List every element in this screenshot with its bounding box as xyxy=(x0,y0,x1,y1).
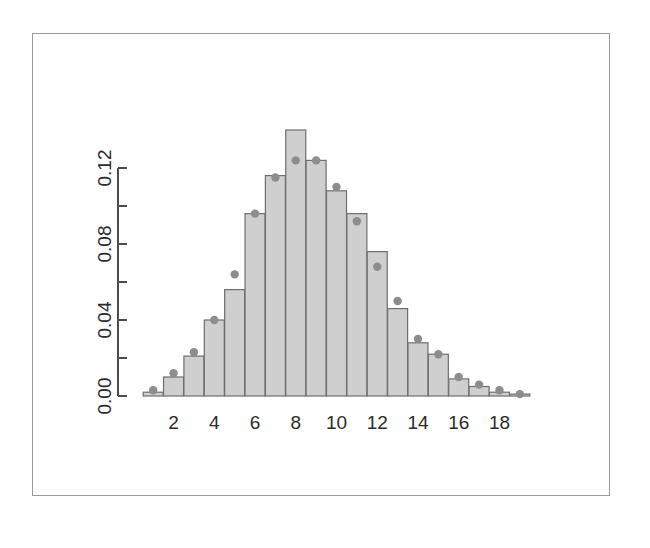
plot-area: 24681012141618 0.000.040.080.12 xyxy=(0,0,650,548)
x-tick-label: 12 xyxy=(367,412,388,433)
x-tick-label: 4 xyxy=(209,412,220,433)
bar xyxy=(204,320,224,396)
bar xyxy=(327,191,347,396)
x-tick-label: 2 xyxy=(168,412,179,433)
figure-canvas: 24681012141618 0.000.040.080.12 xyxy=(0,0,650,548)
bar xyxy=(286,130,306,396)
data-point xyxy=(373,263,381,271)
bar xyxy=(225,290,245,396)
data-point xyxy=(455,373,463,381)
data-point xyxy=(251,209,259,217)
data-point xyxy=(332,183,340,191)
bar xyxy=(265,176,285,396)
data-point xyxy=(414,335,422,343)
y-tick-label: 0.00 xyxy=(94,378,115,415)
bar xyxy=(164,377,184,396)
data-point xyxy=(149,386,157,394)
bar xyxy=(428,354,448,396)
data-point xyxy=(353,217,361,225)
y-tick-label: 0.04 xyxy=(94,301,115,338)
x-tick-label: 16 xyxy=(448,412,469,433)
y-axis xyxy=(118,168,127,396)
x-axis-labels: 24681012141618 xyxy=(168,412,510,433)
data-point xyxy=(210,316,218,324)
data-point xyxy=(230,270,238,278)
y-axis-labels: 0.000.040.080.12 xyxy=(94,150,115,415)
data-point xyxy=(495,386,503,394)
y-tick-label: 0.08 xyxy=(94,226,115,263)
x-tick-label: 18 xyxy=(489,412,510,433)
x-tick-label: 10 xyxy=(326,412,347,433)
data-point xyxy=(190,348,198,356)
barplot-svg: 24681012141618 0.000.040.080.12 xyxy=(0,0,650,548)
data-point xyxy=(434,350,442,358)
y-tick-label: 0.12 xyxy=(94,150,115,187)
bar-series xyxy=(143,130,530,396)
data-point xyxy=(393,297,401,305)
data-point xyxy=(271,173,279,181)
bar xyxy=(367,252,387,396)
data-point xyxy=(312,156,320,164)
bar xyxy=(245,214,265,396)
data-point xyxy=(475,380,483,388)
x-tick-label: 8 xyxy=(290,412,301,433)
bar xyxy=(306,160,326,396)
data-point xyxy=(516,390,524,398)
bar xyxy=(184,356,204,396)
x-tick-label: 6 xyxy=(250,412,261,433)
data-point xyxy=(169,369,177,377)
data-point xyxy=(292,156,300,164)
bar xyxy=(388,309,408,396)
bar xyxy=(347,214,367,396)
bar xyxy=(408,343,428,396)
x-tick-label: 14 xyxy=(407,412,429,433)
bar xyxy=(449,379,469,396)
